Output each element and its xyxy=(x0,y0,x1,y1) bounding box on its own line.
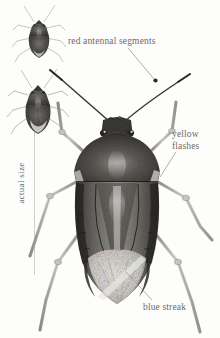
label-blue-streak: blue streak xyxy=(143,302,186,313)
leader-lines xyxy=(0,0,220,338)
label-actual-size: actual size xyxy=(16,148,26,218)
leader-yellow-flashes xyxy=(160,152,176,177)
label-yellow-flashes-line2: flashes xyxy=(172,141,199,151)
leader-blue-streak xyxy=(126,272,152,300)
label-yellow-flashes-line1: yellow xyxy=(172,129,199,139)
illustration-plate: red antennal segments yellow flashes blu… xyxy=(0,0,220,338)
label-red-antennal-segments: red antennal segments xyxy=(68,36,156,47)
label-yellow-flashes: yellow flashes xyxy=(172,128,218,152)
leader-antennal-segments xyxy=(128,48,154,79)
